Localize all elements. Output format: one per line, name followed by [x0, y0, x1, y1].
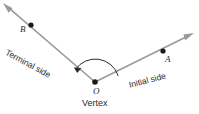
point-b-dot [28, 22, 33, 27]
initial-side-line [95, 37, 187, 82]
point-b-label: B [20, 25, 26, 34]
terminal-side-line [11, 9, 96, 82]
vertex-dot [92, 79, 98, 85]
point-a-dot [160, 48, 165, 53]
point-a-label: A [165, 55, 171, 64]
terminal-side-arrowhead [3, 3, 13, 13]
initial-side-arrowhead [183, 33, 194, 40]
vertex-caption-label: Vertex [82, 99, 108, 108]
vertex-point-label: O [93, 87, 100, 96]
angle-diagram: B A O Vertex Terminal side Initial side [0, 0, 199, 114]
